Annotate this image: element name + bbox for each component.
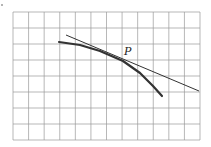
tangent-line (66, 35, 199, 91)
tangent-diagram (0, 0, 211, 147)
corner-dot (1, 4, 3, 6)
grid (13, 12, 200, 140)
point-label-p: P (124, 45, 131, 58)
